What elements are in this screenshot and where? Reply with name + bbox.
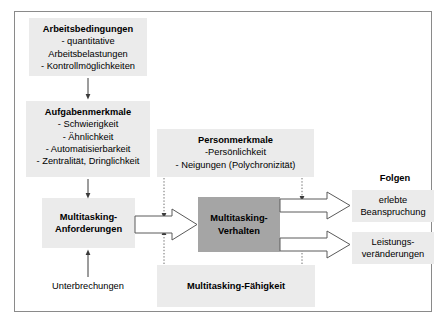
box-arbeitsbedingungen-line-1: - quantitative [29,35,147,47]
box-aufgabenmerkmale-line-3: - Automatisierbarkeit [26,143,150,155]
box-arbeitsbedingungen: Arbeitsbedingungen - quantitative Arbeit… [29,18,147,76]
box-personmerkmale-title: Personmerkmale [157,134,314,146]
box-personmerkmale-line-2: - Neigungen (Polychronizität) [157,159,314,171]
box-leistungsveraenderungen-line-2: veränderungen [362,248,425,260]
box-aufgabenmerkmale-line-4: - Zentralität, Dringlichkeit [26,155,150,167]
label-unterbrechungen: Unterbrechungen [28,281,148,291]
heading-folgen: Folgen [355,173,435,183]
box-personmerkmale: Personmerkmale -Persönlichkeit - Neigung… [157,129,314,177]
box-aufgabenmerkmale-line-2: - Ähnlichkeit [26,131,150,143]
box-multitasking-verhalten: Multitasking- Verhalten [198,197,280,252]
box-aufgabenmerkmale: Aufgabenmerkmale - Schwierigkeit - Ähnli… [26,101,150,177]
diagram-canvas: Arbeitsbedingungen - quantitative Arbeit… [0,0,448,333]
box-multitasking-verhalten-line-1: Multitasking- [210,212,267,224]
box-aufgabenmerkmale-title: Aufgabenmerkmale [26,106,150,118]
box-multitasking-verhalten-line-2: Verhalten [218,225,260,237]
box-arbeitsbedingungen-line-2: Arbeitsbelastungen [29,48,147,60]
box-aufgabenmerkmale-line-1: - Schwierigkeit [26,118,150,130]
box-multitasking-anforderungen-line-2: Anforderungen [55,223,122,235]
box-erlebte-beanspruchung-line-1: erlebte [379,194,407,206]
box-arbeitsbedingungen-title: Arbeitsbedingungen [29,23,147,35]
box-erlebte-beanspruchung: erlebte Beanspruchung [352,190,434,222]
box-arbeitsbedingungen-line-3: - Kontrollmöglichkeiten [29,60,147,72]
box-multitasking-faehigkeit: Multitasking-Fähigkeit [157,265,315,307]
box-personmerkmale-line-1: -Persönlichkeit [157,146,314,158]
box-leistungsveraenderungen-line-1: Leistungs- [372,236,415,248]
box-leistungsveraenderungen: Leistungs- veränderungen [352,232,434,264]
box-multitasking-anforderungen: Multitasking- Anforderungen [42,198,135,248]
box-multitasking-faehigkeit-title: Multitasking-Fähigkeit [187,280,285,292]
box-multitasking-anforderungen-line-1: Multitasking- [60,211,117,223]
heading-folgen-text: Folgen [380,173,410,183]
label-unterbrechungen-text: Unterbrechungen [52,281,124,291]
box-erlebte-beanspruchung-line-2: Beanspruchung [360,206,425,218]
